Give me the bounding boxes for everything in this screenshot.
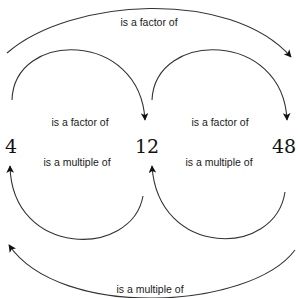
edge-right-bottom-arrow xyxy=(152,166,285,239)
edge-right-top-arrow xyxy=(152,50,287,120)
relationship-diagram: is a factor of is a factor of is a facto… xyxy=(0,0,298,298)
edge-left-bottom-label: is a multiple of xyxy=(43,156,110,168)
node-48: 48 xyxy=(272,135,296,157)
edge-right-top-label: is a factor of xyxy=(191,116,248,128)
edge-left-top-label: is a factor of xyxy=(51,116,108,128)
edge-right-bottom-label: is a multiple of xyxy=(185,156,252,168)
edge-bottom-label: is a multiple of xyxy=(116,283,183,295)
edge-left-top-arrow xyxy=(12,50,145,120)
edge-left-bottom-arrow xyxy=(10,166,143,239)
node-4: 4 xyxy=(5,135,17,157)
edge-top-label: is a factor of xyxy=(120,16,177,28)
node-12: 12 xyxy=(135,135,159,157)
